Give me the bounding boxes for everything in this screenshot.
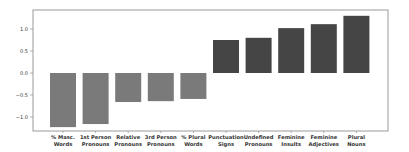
- x-tick-label: Feminine: [310, 134, 337, 140]
- x-tick-label: Feminine: [278, 134, 305, 140]
- x-tick-label: Undefined: [244, 134, 274, 140]
- x-tick-label: Insults: [281, 141, 301, 147]
- bars: [50, 16, 369, 127]
- x-tick-label: Pronouns: [147, 141, 175, 147]
- bar: [115, 73, 141, 102]
- x-tick-label: Relative: [116, 134, 140, 140]
- bar: [311, 24, 337, 73]
- x-tick-label: Adjectives: [309, 141, 339, 148]
- y-tick-label: 1.0: [20, 26, 28, 32]
- bar: [278, 28, 304, 73]
- x-tick-label: Signs: [218, 141, 234, 148]
- x-tick-label: Pronouns: [114, 141, 142, 147]
- bar: [83, 73, 109, 124]
- chart-canvas: 1.00.50.0−0.5−1.0 % Masc.Words1st Person…: [0, 0, 409, 152]
- y-axis: 1.00.50.0−0.5−1.0: [16, 26, 33, 120]
- x-tick-label: Plural: [348, 134, 365, 140]
- x-tick-label: Punctuation: [208, 134, 244, 140]
- x-axis-labels: % Masc.Words1st PersonPronounsRelativePr…: [51, 131, 366, 148]
- bar: [213, 40, 239, 73]
- x-tick-label: Nouns: [347, 141, 365, 147]
- x-tick-label: % Masc.: [51, 134, 75, 140]
- x-tick-label: Words: [54, 141, 72, 147]
- x-tick-label: % Plural: [181, 134, 205, 140]
- bar-chart: 1.00.50.0−0.5−1.0 % Masc.Words1st Person…: [0, 0, 409, 152]
- x-tick-label: 1st Person: [80, 134, 112, 140]
- bar: [246, 38, 272, 73]
- y-tick-label: 0.0: [20, 70, 28, 76]
- x-tick-label: Pronouns: [245, 141, 273, 147]
- bar: [343, 16, 369, 73]
- bar: [50, 73, 76, 127]
- bar: [180, 73, 206, 99]
- bar: [148, 73, 174, 101]
- y-tick-label: −1.0: [16, 114, 28, 120]
- y-tick-label: −0.5: [16, 92, 28, 98]
- x-tick-label: 3rd Person: [145, 134, 177, 140]
- x-tick-label: Words: [184, 141, 202, 147]
- y-tick-label: 0.5: [20, 48, 28, 54]
- x-tick-label: Pronouns: [82, 141, 110, 147]
